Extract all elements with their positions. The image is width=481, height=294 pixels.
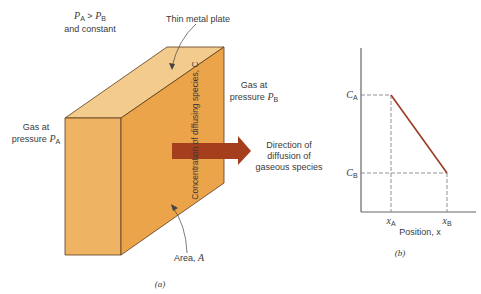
caption-a: (a) — [150, 279, 170, 290]
cb-tick-label: CB — [344, 167, 360, 181]
direction-label: Direction of diffusion of gaseous specie… — [252, 140, 326, 173]
plate-label: Thin metal plate — [158, 14, 238, 25]
gas-left-label: Gas at pressure PA — [8, 122, 64, 147]
concentration-profile-line — [391, 95, 447, 173]
y-axis-label: Concentration of diffusing species, C — [190, 36, 201, 226]
area-label: Area, A — [164, 252, 214, 264]
pressure-condition-label: PA > PB and constant — [50, 10, 130, 35]
gas-right-label: Gas at pressure PB — [226, 80, 282, 105]
x-axis-label: Position, x — [385, 227, 455, 238]
ca-tick-label: CA — [344, 89, 360, 103]
caption-b: (b) — [390, 248, 410, 259]
plate-edge-face — [65, 118, 121, 255]
